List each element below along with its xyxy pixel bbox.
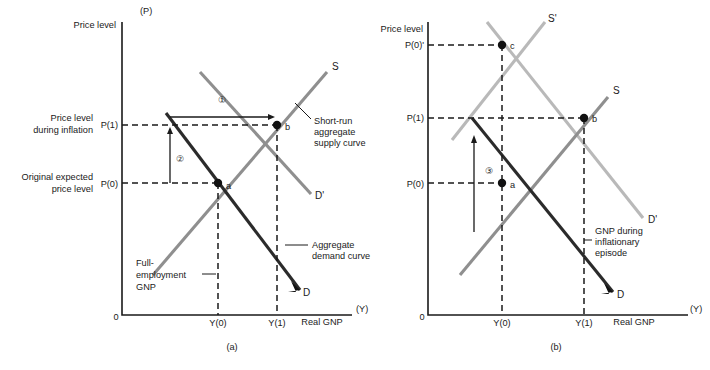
panel-b-xtick-y0: Y(0) — [493, 318, 510, 328]
panel-a-ytick-p0-desc-line1: Original expected — [22, 172, 94, 182]
panel-b-point-b-label: b — [592, 114, 597, 124]
panel-a-step1-badge: ① — [218, 95, 226, 105]
panel-a-xtick-y1: Y(1) — [268, 318, 285, 328]
panel-a-ytick-p1-desc-line1: Price level — [51, 113, 93, 123]
panel-b-callout-gnp-line1: GNP during — [595, 226, 643, 236]
panel-b-step3-badge: ③ — [485, 166, 493, 176]
panel-a-callout-sras-line2: aggregate — [314, 127, 355, 137]
panel-b-origin-label: 0 — [419, 312, 424, 322]
panel-b-xtick-y1: Y(1) — [575, 318, 592, 328]
panel-a-point-b — [273, 121, 281, 129]
panel-b-point-c — [498, 41, 506, 49]
panel-b-label-d-prime: D' — [648, 214, 657, 225]
panel-b-label-d: D — [617, 289, 624, 300]
panel-b-y-axis-label: Price level — [381, 24, 423, 34]
panel-a-caption: (a) — [226, 342, 237, 352]
panel-a-x-axis-label: Real GNP — [301, 317, 342, 327]
panel-a-callout-sras-line3: supply curve — [314, 138, 366, 148]
panel-a-ytick-p1-desc-line2: during inflation — [33, 125, 93, 135]
panel-b-x-axis-label: Real GNP — [613, 317, 654, 327]
panel-a-callout-fegnp-line3: GNP — [136, 282, 156, 292]
panel-b-x-axis-symbol: (Y) — [690, 304, 702, 314]
panel-b-ytick-p1: P(1) — [407, 113, 424, 123]
panel-a-origin-label: 0 — [113, 312, 118, 322]
panel-a-point-a-label: a — [226, 181, 232, 191]
panel-a-callout-fegnp-line2: employment — [136, 270, 186, 280]
panel-b-label-s: S — [613, 85, 620, 96]
panel-b-callout-gnp-line3: episode — [595, 248, 627, 258]
panel-b-point-a-label: a — [510, 180, 516, 190]
panel-b-ytick-p0-prime: P(0)' — [405, 40, 424, 50]
panel-a-label-d-prime: D' — [315, 190, 324, 201]
panel-a-point-b-label: b — [285, 122, 290, 132]
panel-a-xtick-y0: Y(0) — [209, 318, 226, 328]
panel-a-ytick-p0: P(0) — [101, 179, 118, 189]
panel-a-ytick-p0-desc-line2: price level — [52, 184, 93, 194]
panel-b-point-b — [580, 114, 588, 122]
panel-a-label-d: D — [303, 287, 310, 298]
panel-a-y-axis-label: Price level — [74, 20, 116, 30]
panel-a-label-s: S — [332, 61, 339, 72]
economics-ad-as-figure: ① ② (P) Price level 0 Real GNP (Y) P(1) … — [0, 0, 710, 370]
panel-a-step2-badge: ② — [176, 154, 184, 164]
panel-b-ytick-p0: P(0) — [407, 179, 424, 189]
panel-a-callout-ad-line1: Aggregate — [312, 240, 354, 250]
panel-a-ytick-p1: P(1) — [101, 120, 118, 130]
panel-b-point-c-label: c — [510, 41, 515, 51]
panel-b-callout-gnp-line2: inflationary — [595, 237, 640, 247]
panel-a-callout-ad-line2: demand curve — [312, 251, 370, 261]
panel-a-x-axis-symbol: (Y) — [356, 304, 368, 314]
panel-a-y-axis-symbol: (P) — [140, 6, 152, 16]
panel-a-point-a — [214, 179, 222, 187]
panel-a-callout-sras-line1: Short-run — [314, 116, 352, 126]
panel-b-label-s-prime: S' — [548, 13, 557, 24]
panel-b-caption: (b) — [550, 342, 561, 352]
panel-a-callout-fegnp-line1: Full- — [136, 258, 154, 268]
panel-b-point-a — [498, 179, 506, 187]
